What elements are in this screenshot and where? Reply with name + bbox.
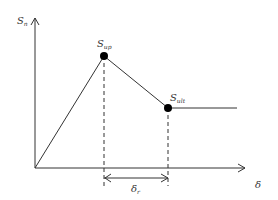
stress-slip-curve xyxy=(35,56,237,168)
stress-slip-diagram: Sn Sup Sult δr δ xyxy=(0,0,278,200)
y-axis-label: Sn xyxy=(17,15,28,27)
dimension-label: δr xyxy=(131,183,141,195)
x-axis-label: δ xyxy=(255,179,261,190)
residual-point xyxy=(164,104,172,112)
residual-label: Sult xyxy=(170,92,186,104)
peak-label: Sup xyxy=(97,38,112,51)
peak-point xyxy=(100,52,108,60)
